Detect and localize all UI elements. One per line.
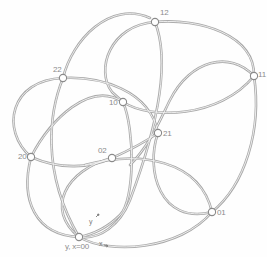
node-label-02: 02 — [98, 147, 107, 155]
node-12[interactable] — [151, 18, 158, 25]
node-label-20: 20 — [18, 153, 27, 161]
node-label-21: 21 — [163, 130, 172, 138]
node-label-12: 12 — [160, 9, 169, 17]
node-20[interactable] — [27, 153, 34, 160]
node-21[interactable] — [154, 129, 161, 136]
node-label-22: 22 — [53, 66, 62, 74]
node-22[interactable] — [59, 74, 66, 81]
diagram-canvas: 12 22 10 11 21 20 02 01 y, x=00 y x — [0, 0, 267, 257]
x-axis-marker: x — [99, 240, 103, 247]
node-label-11: 11 — [258, 71, 266, 79]
node-10[interactable] — [119, 98, 126, 105]
node-01[interactable] — [208, 208, 215, 215]
y-axis-marker: y — [89, 218, 93, 225]
node-02[interactable] — [108, 154, 115, 161]
node-11[interactable] — [250, 72, 257, 79]
node-label-01: 01 — [217, 209, 226, 217]
loop-graph — [0, 0, 267, 257]
y-arrow-icon — [96, 214, 99, 217]
node-label-10: 10 — [109, 99, 118, 107]
node-label-00: y, x=00 — [65, 243, 89, 251]
node-00[interactable] — [75, 233, 82, 240]
